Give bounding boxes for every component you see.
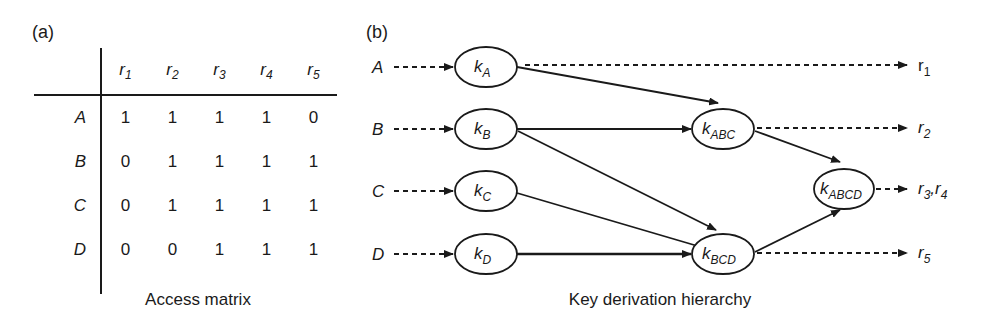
input-label-c: C [372, 182, 385, 201]
key-derivation-diagram: A B C D kA kB kC kD kABC kBCD kABCD r1 r… [0, 0, 981, 321]
output-label-r1: r1 [918, 56, 931, 79]
input-label-b: B [372, 120, 383, 139]
edge-kabc-kabcd [755, 131, 840, 162]
edge-kbcd-kabcd [755, 210, 840, 252]
input-label-a: A [371, 58, 383, 77]
edge-kc-kbcd [517, 193, 718, 252]
output-label-r5: r5 [918, 243, 931, 266]
edge-kb-kbcd [518, 131, 716, 230]
panel-b-caption: Key derivation hierarchy [540, 290, 780, 310]
edge-ka-kabc [517, 67, 718, 103]
output-label-r2: r2 [918, 118, 931, 141]
input-label-d: D [372, 245, 384, 264]
output-label-r3-r4: r3,r4 [918, 179, 948, 202]
